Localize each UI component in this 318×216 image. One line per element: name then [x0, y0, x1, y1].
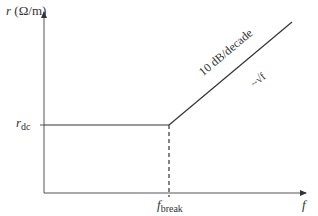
x-axis-label: f: [302, 197, 306, 213]
y-axis-label: r (Ω/m): [6, 3, 46, 19]
f-break-label: fbreak: [157, 197, 183, 213]
resistance-vs-frequency-diagram: [0, 0, 318, 216]
r-dc-subscript: dc: [21, 121, 30, 132]
y-axis-unit: (Ω/m): [14, 3, 46, 18]
y-axis-symbol: r: [6, 3, 11, 18]
r-dc-label: rdc: [16, 115, 31, 131]
f-break-subscript: break: [161, 203, 183, 214]
